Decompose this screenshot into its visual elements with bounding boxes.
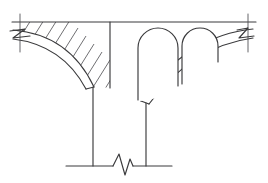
arch-opening-left-fill <box>138 28 178 101</box>
ground-group <box>66 154 172 175</box>
arch-opening-right-fill <box>182 28 218 84</box>
arch-openings-group <box>138 28 218 101</box>
arch-bridge-elevation-figure: Masonry arch bridge pier elevation Line … <box>0 0 268 183</box>
left-spandrel-group <box>6 0 150 164</box>
technical-drawing-canvas: Masonry arch bridge pier elevation Line … <box>0 0 268 183</box>
ground-break-symbol <box>113 154 133 175</box>
